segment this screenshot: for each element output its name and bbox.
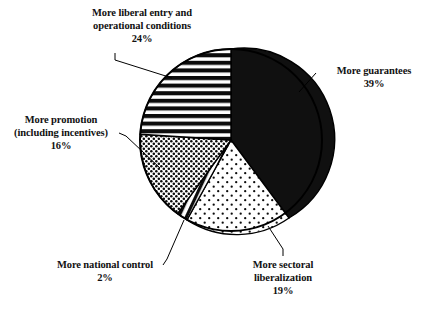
callout-label-guarantees: More guarantees 39% xyxy=(322,64,426,90)
callout-label-promotion-value: 16% xyxy=(3,139,119,152)
callout-label-liberal-entry-line2: operational conditions xyxy=(68,19,216,32)
callout-label-promotion-line1: More promotion xyxy=(3,113,119,126)
callout-label-sectoral: More sectoral liberalization 19% xyxy=(229,258,337,297)
callout-label-sectoral-line2: liberalization xyxy=(229,271,337,284)
leader-line-national-control xyxy=(163,220,184,265)
callout-label-promotion-line2: (including incentives) xyxy=(3,126,119,139)
callout-label-liberal-entry: More liberal entry and operational condi… xyxy=(68,6,216,45)
leader-line-sectoral xyxy=(268,226,283,256)
pie-slices xyxy=(140,48,335,234)
callout-label-sectoral-line1: More sectoral xyxy=(229,258,337,271)
callout-label-national-control: More national control 2% xyxy=(47,258,163,284)
leader-line-liberal-entry xyxy=(115,53,172,78)
callout-label-sectoral-value: 19% xyxy=(229,284,337,297)
pie-chart-figure: More liberal entry and operational condi… xyxy=(0,0,434,309)
pie-slice-more-liberal-entry xyxy=(140,49,231,140)
callout-label-national-control-line1: More national control xyxy=(47,258,163,271)
callout-label-promotion: More promotion (including incentives) 16… xyxy=(3,113,119,152)
callout-label-guarantees-line1: More guarantees xyxy=(322,64,426,77)
callout-label-liberal-entry-value: 24% xyxy=(68,32,216,45)
callout-label-national-control-value: 2% xyxy=(47,271,163,284)
callout-label-liberal-entry-line1: More liberal entry and xyxy=(68,6,216,19)
callout-label-guarantees-value: 39% xyxy=(322,77,426,90)
